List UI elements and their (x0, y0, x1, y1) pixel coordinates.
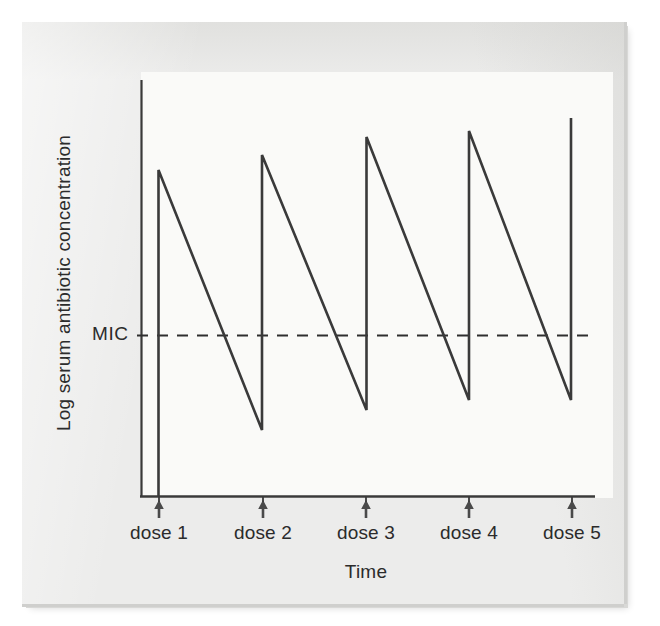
dose-label-1: dose 1 (104, 522, 214, 544)
mic-label: MIC (92, 323, 129, 345)
concentration-curve (159, 118, 572, 496)
dose-arrow-1 (154, 500, 164, 518)
figure-root: Log serum antibiotic concentration MIC d… (0, 0, 660, 626)
dose-arrow-3 (361, 500, 371, 518)
dose-arrow-5 (567, 500, 577, 518)
dose-label-4: dose 4 (414, 522, 524, 544)
dose-label-2: dose 2 (208, 522, 318, 544)
dose-arrow-2 (258, 500, 268, 518)
dose-label-3: dose 3 (311, 522, 421, 544)
x-axis-label: Time (0, 561, 660, 583)
dose-arrow-4 (464, 500, 474, 518)
x-axis-label-text: Time (345, 561, 387, 582)
dose-label-5: dose 5 (517, 522, 627, 544)
